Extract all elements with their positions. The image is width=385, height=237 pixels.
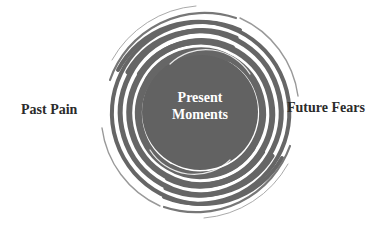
spiral-diagram: Past Pain Future Fears Present Moments (0, 0, 385, 237)
center-label-line1: Present (150, 89, 250, 106)
present-moments-label: Present Moments (150, 89, 250, 123)
future-fears-label: Future Fears (287, 101, 365, 115)
center-label-line2: Moments (150, 106, 250, 123)
past-pain-label: Past Pain (21, 103, 77, 117)
